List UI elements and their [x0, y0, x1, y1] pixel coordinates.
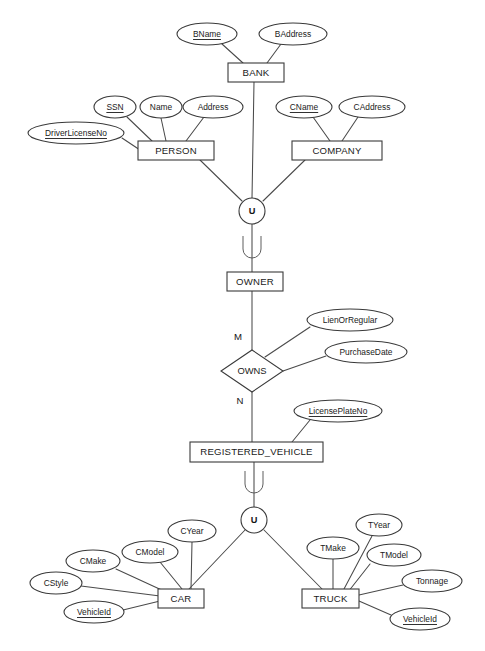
connector-line — [342, 117, 358, 141]
connector-line — [348, 564, 370, 592]
entity-label: CAR — [171, 593, 192, 604]
attribute-node[interactable]: CModel — [122, 541, 178, 563]
entity-label: PERSON — [155, 145, 197, 156]
connector-line — [359, 585, 403, 595]
attribute-label: CMake — [80, 556, 107, 566]
attribute-node[interactable]: BName — [177, 23, 237, 45]
attribute-node[interactable]: Name — [140, 96, 182, 118]
attribute-node[interactable]: CName — [276, 96, 332, 118]
attribute-node[interactable]: LienOrRegular — [307, 309, 393, 331]
attribute-node[interactable]: DriverLicenseNo — [28, 122, 124, 144]
attribute-node[interactable]: BAddress — [259, 23, 327, 45]
attribute-label: BAddress — [275, 29, 311, 39]
attribute-node[interactable]: Address — [183, 96, 243, 118]
union-node[interactable]: U — [239, 198, 265, 224]
attribute-label: CYear — [181, 526, 204, 536]
attribute-node[interactable]: TModel — [367, 544, 421, 566]
entity-owner[interactable]: OWNER — [227, 272, 283, 291]
relationship-label: OWNS — [237, 365, 266, 376]
attribute-label: BName — [193, 29, 221, 39]
connector-line — [264, 530, 322, 589]
connector-line — [186, 117, 204, 141]
connector-line — [265, 327, 310, 357]
attribute-node[interactable]: PurchaseDate — [325, 341, 407, 363]
attribute-node[interactable]: VehicleId — [390, 608, 450, 630]
entity-label: COMPANY — [312, 145, 362, 156]
entity-car[interactable]: CAR — [158, 589, 204, 608]
connector-line — [283, 356, 326, 371]
cardinality-label: M — [234, 331, 242, 342]
attribute-node[interactable]: TYear — [356, 514, 402, 536]
entity-label: BANK — [243, 67, 270, 78]
attribute-label: CName — [290, 102, 319, 112]
attribute-label: DriverLicenseNo — [45, 128, 107, 138]
connector-line — [123, 601, 160, 610]
er-diagram-canvas: BNameBAddressSSNNameAddressDriverLicense… — [0, 0, 485, 651]
attribute-label: TModel — [380, 550, 408, 560]
attribute-label: LicensePlateNo — [309, 406, 368, 416]
entity-truck[interactable]: TRUCK — [302, 589, 359, 608]
union-label: U — [251, 515, 258, 525]
attribute-label: Tonnage — [416, 576, 448, 586]
attribute-layer: BNameBAddressSSNNameAddressDriverLicense… — [28, 23, 462, 630]
attribute-node[interactable]: Tonnage — [402, 570, 462, 592]
union-label: U — [249, 206, 256, 216]
attribute-node[interactable]: LicensePlateNo — [294, 400, 382, 422]
attribute-label: CModel — [136, 547, 165, 557]
connector-line — [191, 542, 192, 589]
attribute-label: CStyle — [44, 578, 69, 588]
connector-line — [161, 118, 166, 141]
connector-line — [127, 117, 152, 141]
attribute-node[interactable]: VehicleId — [64, 601, 124, 623]
attribute-node[interactable]: CStyle — [30, 572, 82, 594]
attribute-label: Address — [198, 102, 229, 112]
cardinality-label: N — [237, 395, 244, 406]
entity-label: REGISTERED_VEHICLE — [200, 446, 312, 457]
attribute-label: TMake — [320, 543, 346, 553]
entity-label: OWNER — [236, 276, 274, 287]
attribute-node[interactable]: CYear — [168, 520, 216, 542]
connector-line — [122, 138, 140, 150]
entity-bank[interactable]: BANK — [228, 63, 284, 82]
connector-line — [200, 160, 242, 201]
attribute-label: LienOrRegular — [323, 315, 378, 325]
attribute-label: PurchaseDate — [339, 347, 392, 357]
connector-line — [267, 44, 281, 63]
connector-line — [292, 420, 310, 442]
attribute-label: VehicleId — [403, 614, 437, 624]
attribute-label: TYear — [368, 520, 390, 530]
connector-line — [313, 117, 330, 141]
connector-line — [359, 601, 391, 615]
attribute-node[interactable]: CMake — [66, 550, 120, 572]
relationship-layer: OWNS — [221, 350, 283, 392]
connector-line — [263, 160, 305, 201]
attribute-label: CAddress — [354, 102, 391, 112]
attribute-label: Name — [150, 102, 173, 112]
connector-line — [222, 44, 243, 63]
connector-line — [252, 82, 254, 198]
entity-company[interactable]: COMPANY — [292, 141, 382, 160]
attribute-label: SSN — [106, 102, 123, 112]
attribute-node[interactable]: CAddress — [339, 96, 405, 118]
entity-label: TRUCK — [313, 593, 347, 604]
entity-registered_vehicle[interactable]: REGISTERED_VEHICLE — [190, 442, 323, 462]
connector-line — [81, 586, 160, 596]
relationship-owns[interactable]: OWNS — [221, 350, 283, 392]
connector-line — [160, 562, 182, 589]
attribute-node[interactable]: SSN — [94, 96, 136, 118]
union-node[interactable]: U — [241, 507, 267, 533]
entity-person[interactable]: PERSON — [138, 141, 214, 160]
attribute-node[interactable]: TMake — [307, 537, 359, 559]
attribute-label: VehicleId — [77, 607, 111, 617]
